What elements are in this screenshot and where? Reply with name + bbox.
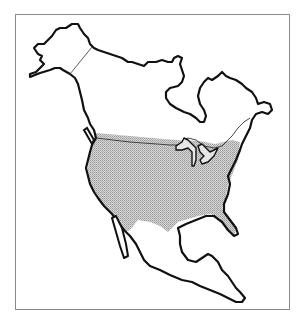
- vancouver-island: [84, 128, 94, 144]
- alaska-canada-border: [70, 47, 92, 74]
- caption-area: [0, 312, 302, 324]
- north-america-map: [0, 0, 302, 324]
